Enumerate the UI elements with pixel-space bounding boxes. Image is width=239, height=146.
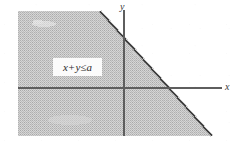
region-inequality-label: x+y≤a	[53, 58, 102, 76]
y-axis-label: y	[120, 2, 124, 12]
inequality-figure: x+y≤a y x	[0, 0, 239, 146]
x-axis-label: x	[225, 82, 229, 92]
figure-plate	[0, 0, 239, 146]
